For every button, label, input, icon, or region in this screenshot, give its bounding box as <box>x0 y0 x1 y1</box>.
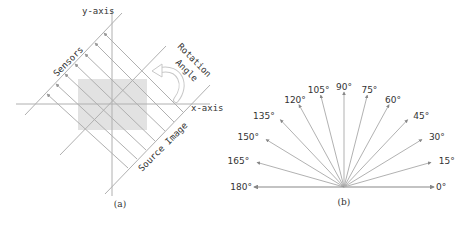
angle-ray-135 <box>280 120 344 187</box>
panel-b: 0°15°30°45°60°75°90°105°120°135°150°165°… <box>228 82 455 192</box>
angle-ray-105 <box>321 95 344 187</box>
angle-ray-165 <box>257 162 344 187</box>
angle-label-120: 120° <box>284 95 306 105</box>
angle-label-15: 15° <box>439 156 455 166</box>
angle-label-180: 180° <box>230 182 252 192</box>
angle-label-165: 165° <box>228 156 250 166</box>
caption-a: (a) <box>114 199 126 209</box>
angle-ray-15 <box>344 162 431 187</box>
x-axis-label: x-axis <box>191 103 224 113</box>
angle-label-30: 30° <box>429 132 445 142</box>
angle-label-0: 0° <box>436 182 446 192</box>
angle-ray-60 <box>344 105 389 187</box>
figure: y-axis x-axis Sensors Rotation Angle Sou… <box>0 0 465 225</box>
rotation-arrow-icon <box>152 64 182 100</box>
angle-ray-75 <box>344 95 367 187</box>
angle-label-150: 150° <box>237 132 259 142</box>
panel-a: y-axis x-axis Sensors Rotation Angle Sou… <box>16 6 224 209</box>
angle-ray-30 <box>344 140 422 188</box>
angle-ray-150 <box>266 140 344 188</box>
angle-label-45: 45° <box>413 111 429 121</box>
angle-label-60: 60° <box>385 95 401 105</box>
angle-ray-120 <box>299 105 344 187</box>
angle-label-135: 135° <box>253 111 275 121</box>
angle-ray-45 <box>344 120 408 187</box>
angle-label-105: 105° <box>308 85 330 95</box>
y-axis-label: y-axis <box>82 6 115 16</box>
caption-b: (b) <box>338 197 351 207</box>
angle-label-75: 75° <box>361 85 377 95</box>
angle-label-90: 90° <box>336 82 352 92</box>
sensors-label: Sensors <box>51 45 85 79</box>
